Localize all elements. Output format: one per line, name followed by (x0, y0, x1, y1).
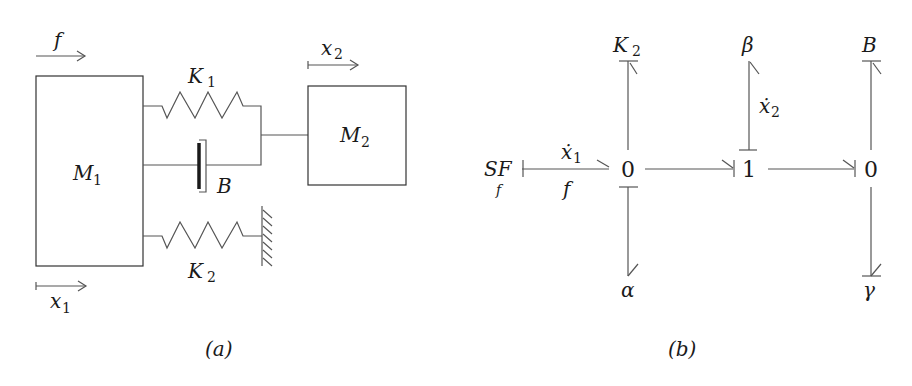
x1-subscript: 1 (62, 300, 71, 316)
ground-wall-icon (262, 206, 272, 266)
bond-junction0-to-k2 (619, 61, 638, 150)
x1-label: x (50, 289, 61, 313)
mass-m2-label: M (339, 123, 361, 147)
spring-k2-label: K (187, 259, 204, 283)
force-label: f (52, 28, 65, 52)
x2-label: x (321, 36, 332, 60)
spring-k2-subscript: 2 (207, 269, 216, 285)
damper-b-label: B (216, 174, 232, 198)
bond-junction1-to-junction0-right (768, 160, 855, 177)
caption-b: (b) (668, 337, 696, 361)
spring-k1 (143, 92, 261, 135)
spring-k1-subscript: 1 (207, 74, 216, 90)
mass-m1-subscript: 1 (93, 172, 102, 188)
junction-0-right: 0 (864, 157, 878, 182)
figure-canvas: f M 1 x 1 K 1 B M 2 (0, 0, 912, 386)
beta-label: β (741, 33, 754, 57)
force-arrow (36, 51, 85, 61)
junction-0-left: 0 (621, 157, 635, 182)
junction-1: 1 (742, 157, 756, 182)
bond-junction0-to-junction1 (645, 160, 734, 177)
k2-element-subscript: 2 (632, 43, 641, 59)
spring-k1-label: K (187, 64, 204, 88)
gamma-label: γ (863, 278, 875, 302)
bond-junction0-right-to-gamma (862, 187, 881, 276)
x2dot-subscript: 2 (771, 104, 780, 120)
mass-m2-subscript: 2 (361, 134, 370, 150)
b-element-label: B (861, 33, 877, 57)
spring-k2 (143, 222, 262, 248)
x2-subscript: 2 (334, 46, 343, 62)
bond-effort-label: f (561, 177, 574, 201)
bond-junction0-to-alpha (619, 187, 638, 276)
x2-arrow (308, 60, 358, 70)
mass-m1-label: M (72, 161, 94, 185)
bond-flow-label: ẋ (561, 140, 572, 164)
bond-junction1-to-beta (739, 61, 759, 150)
k2-element-label: K (612, 33, 629, 57)
bond-junction0-right-to-b (862, 61, 881, 150)
caption-a: (a) (205, 337, 233, 361)
figure-a-mechanical-system: f M 1 x 1 K 1 B M 2 (36, 28, 406, 361)
bond-flow-subscript: 1 (573, 150, 582, 166)
source-sf-label: SF (484, 157, 513, 181)
alpha-label: α (621, 278, 635, 302)
x2dot-label: ẋ (759, 94, 770, 118)
figure-b-bond-graph: SF f ẋ 1 f 0 K 2 α (484, 33, 881, 361)
source-sf-subscript: f (495, 182, 504, 198)
